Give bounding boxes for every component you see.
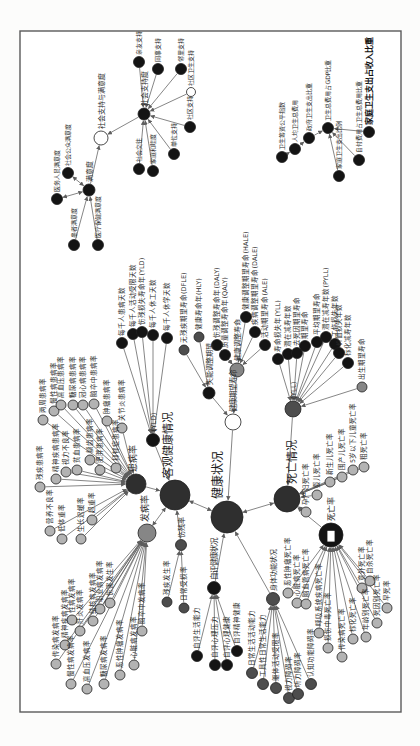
node-label-m1: 恶性肿瘤死亡率 bbox=[283, 537, 292, 586]
node-circle bbox=[364, 127, 375, 138]
node-label-f2: 人均卫生总费用 bbox=[291, 100, 299, 142]
node-label-p17: 低体重率 bbox=[57, 504, 66, 532]
node-f4 bbox=[323, 123, 334, 134]
node-circle bbox=[290, 144, 301, 155]
node-circle bbox=[372, 618, 382, 628]
node-circle bbox=[312, 490, 322, 500]
node-label-ss7: 家庭和睦度 bbox=[149, 134, 157, 164]
node-circle bbox=[283, 588, 293, 598]
node-y5 bbox=[162, 333, 173, 344]
node-label-k5: 5岁以下儿童死亡率 bbox=[348, 403, 357, 463]
node-circle bbox=[88, 616, 98, 626]
node-p17 bbox=[57, 534, 67, 544]
node-label-m2: 心脏病死亡率 bbox=[292, 554, 301, 596]
node-label-i1: 传染病发病率 bbox=[51, 615, 60, 657]
node-label-ss1: 亲友支持 bbox=[135, 31, 143, 55]
node-ss5 bbox=[185, 122, 196, 133]
node-label-sa3: 患者满意度 bbox=[70, 208, 78, 238]
node-label-ds2: 日常受损率 bbox=[179, 566, 188, 601]
node-circle bbox=[63, 168, 74, 179]
node-circle bbox=[357, 382, 367, 392]
node-p12 bbox=[111, 463, 121, 473]
node-circle bbox=[85, 455, 95, 465]
node-l10 bbox=[357, 382, 367, 392]
node-p11 bbox=[95, 465, 105, 475]
node-circle bbox=[111, 463, 121, 473]
node-h5 bbox=[260, 340, 271, 351]
node-label-s3: 自评心理健康 bbox=[222, 616, 231, 658]
node-label-h5: 活动期望寿命(ALE) bbox=[260, 278, 269, 337]
node-circle bbox=[179, 345, 189, 355]
node-label-ss5: 社区支持 bbox=[186, 96, 194, 120]
node-label-k3: 新生儿死亡率 bbox=[325, 433, 334, 475]
node-circle bbox=[274, 486, 300, 512]
node-circle bbox=[267, 593, 280, 606]
health-indicator-network-diagram: 健康状况客观健康情况死亡情况患病率发病率伤残率自评健康状况健康期望寿命(YLD)… bbox=[0, 0, 420, 746]
node-l8 bbox=[334, 348, 345, 359]
node-p5 bbox=[78, 400, 88, 410]
node-i4 bbox=[99, 679, 109, 689]
node-m10 bbox=[382, 603, 392, 613]
node-circle bbox=[134, 164, 145, 175]
node-label-i3: 高血压发病率 bbox=[82, 640, 91, 682]
node-label-p16: 营养不良率 bbox=[45, 489, 54, 524]
node-dfle bbox=[203, 387, 215, 399]
node-label-i10: 结核病发病率 bbox=[88, 572, 97, 614]
node-label-death: 死亡情况 bbox=[285, 440, 299, 484]
node-label-p4: 糖尿病患病率 bbox=[68, 356, 77, 398]
node-m1 bbox=[283, 588, 293, 598]
node-circle bbox=[250, 327, 261, 338]
node-label-p14: 残疾患病率 bbox=[35, 445, 44, 480]
node-m8 bbox=[361, 632, 371, 642]
node-label-ss2: 同事支持 bbox=[154, 38, 162, 62]
node-circle bbox=[192, 651, 203, 662]
node-circle bbox=[137, 626, 147, 636]
node-label-p8: 关节炎患病率 bbox=[117, 379, 126, 421]
node-circle bbox=[325, 477, 335, 487]
node-circle bbox=[78, 400, 88, 410]
node-label-p9: 贫血患病率 bbox=[72, 428, 81, 463]
node-i11 bbox=[75, 626, 85, 636]
node-he bbox=[225, 414, 241, 430]
node-label-fn4: 视力障碍率 bbox=[284, 656, 293, 691]
node-label-f5: 家庭卫生支出比例 bbox=[335, 121, 343, 169]
node-l6 bbox=[321, 332, 332, 343]
node-label-i6: 心脏病发病率 bbox=[129, 616, 138, 658]
node-label-yll: (YLL) bbox=[290, 381, 298, 399]
node-circle bbox=[304, 133, 315, 144]
node-k4 bbox=[337, 472, 347, 482]
node-circle bbox=[334, 348, 345, 359]
node-mr bbox=[319, 523, 343, 547]
node-circle bbox=[222, 660, 233, 671]
node-label-hale: 健康调整寿命 bbox=[233, 319, 242, 361]
node-p13 bbox=[61, 467, 71, 477]
node-label-h2: 质量调整寿命年(QALY) bbox=[220, 277, 229, 347]
node-label-p10: 龋齿患病率 bbox=[85, 418, 94, 453]
node-label-i8: 伤害发生率 bbox=[105, 561, 114, 596]
node-death bbox=[274, 486, 300, 512]
node-label-f7: 家庭卫生支出占收入比重 bbox=[364, 37, 374, 125]
node-circle bbox=[232, 646, 243, 657]
node-label-p11: 肥胖患病率 bbox=[95, 428, 104, 463]
node-s2 bbox=[210, 660, 221, 671]
node-label-ds1: 残疾发生率 bbox=[162, 560, 171, 595]
node-circle bbox=[314, 628, 324, 638]
node-label-p6: 脑卒中患病率 bbox=[89, 355, 98, 397]
node-i6 bbox=[129, 660, 139, 670]
node-circle bbox=[87, 515, 97, 525]
node-label-y4: 每千人休工天数 bbox=[148, 279, 157, 328]
node-i8 bbox=[105, 598, 115, 608]
node-circle bbox=[117, 338, 128, 349]
node-sa4 bbox=[93, 240, 104, 251]
node-circle bbox=[52, 194, 63, 205]
node-circle bbox=[247, 668, 258, 679]
node-p14 bbox=[35, 482, 45, 492]
node-label-obj: 客观健康情况 bbox=[161, 412, 175, 478]
node-circle bbox=[162, 597, 172, 607]
node-circle bbox=[260, 340, 271, 351]
node-circle bbox=[51, 474, 61, 484]
node-f5 bbox=[334, 171, 345, 182]
node-f7 bbox=[364, 127, 375, 138]
node-circle bbox=[225, 414, 241, 430]
node-sat bbox=[83, 184, 95, 196]
